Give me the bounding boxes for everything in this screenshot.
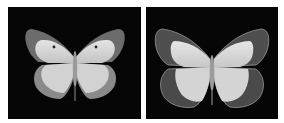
butterfly-image-right [146,7,278,119]
butterfly-right-illustration [146,7,278,119]
butterfly-image-left [8,7,141,119]
butterfly-left-illustration [8,7,141,119]
